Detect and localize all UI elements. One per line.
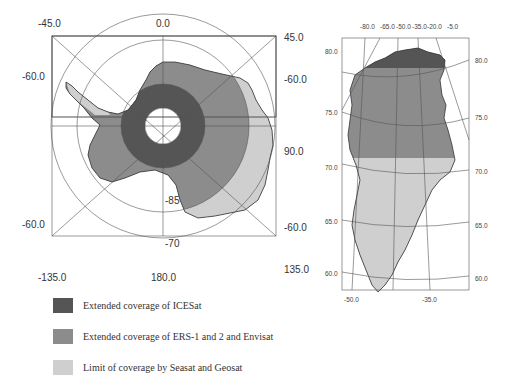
grn-right-label-5: 60.0 <box>475 275 488 282</box>
ant-right-label-3: -60.0 <box>284 222 307 233</box>
grn-right-label-1: 80.0 <box>475 57 488 64</box>
ant-bottom-label-1: -135.0 <box>38 272 66 283</box>
legend-swatch-icesat <box>53 298 73 313</box>
legend-item-ers: Extended coverage of ERS-1 and 2 and Env… <box>53 329 273 344</box>
ant-left-label-1: -60.0 <box>22 71 45 82</box>
legend-swatch-ers <box>53 329 73 344</box>
grn-bottom-label-1: -50.0 <box>344 296 359 303</box>
grn-top-label-3: -50.0 <box>396 23 411 30</box>
ant-right-label-1: -60.0 <box>284 74 307 85</box>
antarctica-map <box>0 0 512 385</box>
legend-item-icesat: Extended coverage of ICESat <box>53 298 202 313</box>
ant-bottom-label-2: 180.0 <box>151 272 176 283</box>
grn-top-label-2: -65.0 <box>380 23 395 30</box>
ant-top-label-1: -45.0 <box>38 18 61 29</box>
grn-top-label-1: -80.0 <box>360 23 375 30</box>
grn-right-label-3: 70.0 <box>475 168 488 175</box>
grn-right-label-4: 65.0 <box>475 222 488 229</box>
grn-left-label-4: 65.0 <box>325 218 338 225</box>
ant-top-label-2: 0.0 <box>156 18 170 29</box>
legend-label-icesat: Extended coverage of ICESat <box>83 300 202 311</box>
legend-label-seasat: Limit of coverage by Seasat and Geosat <box>83 362 242 373</box>
ant-inner-label-85: -85 <box>165 195 179 206</box>
grn-left-label-2: 75.0 <box>325 109 338 116</box>
grn-top-label-4: -35.0 <box>412 23 427 30</box>
grn-left-label-3: 70.0 <box>325 164 338 171</box>
ant-left-label-2: -60.0 <box>22 219 45 230</box>
ant-bottom-label-3: 135.0 <box>284 264 309 275</box>
legend-swatch-seasat <box>53 360 73 375</box>
ant-right-label-2: 90.0 <box>284 146 303 157</box>
ant-inner-label-70: -70 <box>165 238 179 249</box>
grn-top-label-5: -20.0 <box>427 23 442 30</box>
grn-right-label-2: 75.0 <box>475 114 488 121</box>
grn-bottom-label-2: -35.0 <box>422 296 437 303</box>
grn-left-label-1: 80.0 <box>325 48 338 55</box>
legend-label-ers: Extended coverage of ERS-1 and 2 and Env… <box>83 331 273 342</box>
grn-left-label-5: 60.0 <box>325 270 338 277</box>
legend-item-seasat: Limit of coverage by Seasat and Geosat <box>53 360 242 375</box>
ant-top-label-3: 45.0 <box>284 32 303 43</box>
grn-top-label-6: -5.0 <box>447 23 458 30</box>
